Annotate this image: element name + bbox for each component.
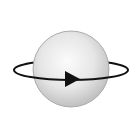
rotation-diagram: Rotating sphere <box>0 0 131 114</box>
sphere <box>33 31 109 107</box>
diagram-svg <box>0 0 131 114</box>
